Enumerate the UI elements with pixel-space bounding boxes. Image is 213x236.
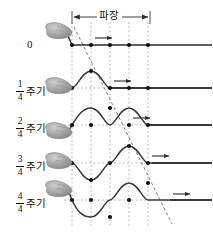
period-word-3-4: 주기: [26, 161, 46, 172]
equilibrium-guides: [64, 88, 152, 200]
fraction-3-4: 3 4: [16, 155, 24, 177]
fraction-1-4: 1 4: [16, 80, 24, 102]
fraction-2-4: 2 4: [16, 117, 24, 139]
row-label-4-4: 4 4 주기: [16, 192, 46, 214]
period-word-4-4: 주기: [26, 198, 46, 209]
row-label-0: 0: [27, 39, 33, 50]
row-label-3-4: 3 4 주기: [16, 155, 46, 177]
hand-icon-row-4: [46, 181, 72, 197]
wavelength-label: 파장: [97, 10, 121, 21]
hand-icon-row-2: [46, 123, 72, 139]
fraction-4-4: 4 4: [16, 192, 24, 214]
hand-icon-row-3: [46, 153, 72, 169]
hand-icon-row-0: [46, 23, 72, 39]
row-label-2-4: 2 4 주기: [16, 117, 46, 139]
wave-propagation-figure: 파장 0 1 4 주기 2 4 주기 3 4 주기 4 4 주기: [0, 0, 213, 236]
period-word-2-4: 주기: [26, 123, 46, 134]
wave-row-2: [64, 106, 212, 133]
wave-row-1: [64, 69, 212, 90]
period-word-1-4: 주기: [26, 86, 46, 97]
row-label-1-4: 1 4 주기: [16, 80, 46, 102]
row-1-dots: [70, 69, 150, 90]
hand-icon-row-1: [46, 78, 72, 94]
wave-row-0: [64, 28, 212, 47]
